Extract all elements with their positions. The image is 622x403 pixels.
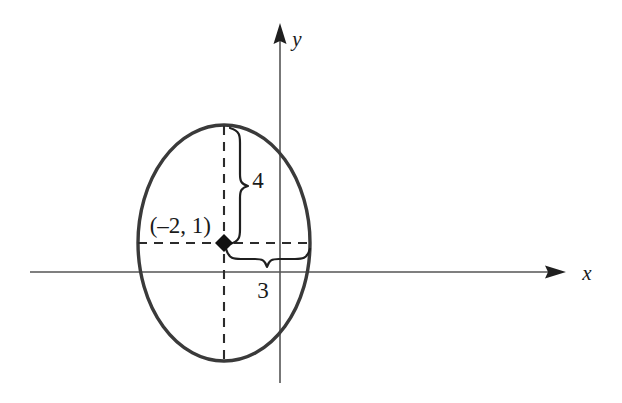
diagram-canvas: x y 4 3 (–2, 1) <box>0 0 622 403</box>
horizontal-dimension-brace <box>226 249 310 267</box>
center-point-marker-icon <box>215 234 233 252</box>
ellipse-diagram: x y 4 3 (–2, 1) <box>0 0 622 403</box>
y-axis-arrow-icon <box>274 23 287 44</box>
vertical-dimension-brace <box>230 128 248 244</box>
x-axis-label: x <box>581 261 592 285</box>
coordinate-axes <box>30 23 566 383</box>
y-axis-label: y <box>290 27 302 51</box>
center-point-label: (–2, 1) <box>150 213 211 238</box>
x-axis-arrow-icon <box>545 266 566 279</box>
vertical-dimension-label: 4 <box>252 168 264 193</box>
horizontal-dimension-label: 3 <box>257 278 269 303</box>
